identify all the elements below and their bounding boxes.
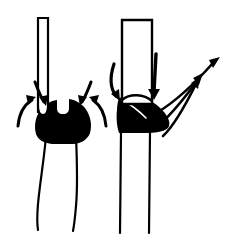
right-vessel-wall-right: [149, 132, 150, 233]
diagram-canvas: [0, 0, 232, 238]
right-vessel-wall-left: [120, 132, 121, 233]
background: [0, 0, 232, 238]
right-wide-tube: [122, 20, 152, 104]
diagram-svg: [0, 0, 232, 238]
left-tube-tip: [38, 106, 48, 115]
